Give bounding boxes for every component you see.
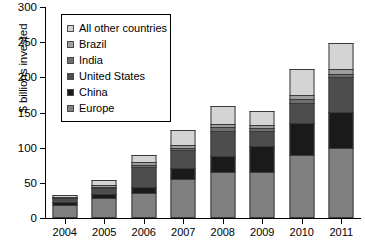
y-tick-label-150: 150 [18,107,37,119]
x-tick-2007 [183,219,184,224]
legend-label: All other countries [79,23,167,34]
y-axis-line [45,7,46,219]
bar-segment-all-other-countries-2008[interactable] [210,106,235,124]
y-tick-label-250: 250 [18,36,37,48]
bar-segment-all-other-countries-2011[interactable] [329,43,354,70]
bar-segment-europe-2007[interactable] [171,179,196,218]
bar-2011[interactable] [329,43,354,218]
y-tick-label-100: 100 [18,142,37,154]
legend-swatch-icon [67,25,74,32]
legend-rows: All other countriesBrazilIndiaUnited Sta… [67,20,166,116]
x-tick-label-2009: 2009 [250,226,274,238]
y-tick-200 [40,77,45,78]
y-tick-300 [40,7,45,8]
bar-segment-europe-2005[interactable] [92,198,117,218]
bar-2009[interactable] [250,111,275,219]
x-tick-2004 [65,219,66,224]
legend-swatch-icon [67,89,74,96]
bar-segment-united-states-2007[interactable] [171,150,196,170]
x-tick-label-2007: 2007 [171,226,195,238]
legend-swatch-icon [67,57,74,64]
y-tick-100 [40,148,45,149]
x-tick-2008 [223,219,224,224]
legend-item-europe[interactable]: Europe [67,100,166,116]
bar-segment-united-states-2011[interactable] [329,77,354,113]
stacked-bar-chart: $ billions invested 050100150200250300 2… [0,0,365,249]
bar-segment-united-states-2009[interactable] [250,131,275,147]
y-tick-150 [40,113,45,114]
bar-segment-china-2010[interactable] [289,123,314,155]
x-tick-2009 [262,219,263,224]
legend-item-china[interactable]: China [67,84,166,100]
x-tick-2006 [144,219,145,224]
bar-segment-europe-2008[interactable] [210,172,235,218]
y-tick-label-50: 50 [24,177,37,189]
legend-label: India [79,55,103,66]
bar-segment-all-other-countries-2007[interactable] [171,130,196,146]
legend-label: Europe [79,103,114,114]
x-axis-line [45,218,361,219]
bar-segment-europe-2006[interactable] [131,193,156,218]
legend-label: China [79,87,108,98]
x-tick-label-2006: 2006 [132,226,156,238]
bar-2010[interactable] [289,69,314,218]
legend-label: United States [79,71,145,82]
bar-2006[interactable] [131,155,156,218]
x-tick-label-2011: 2011 [329,226,353,238]
bar-segment-united-states-2006[interactable] [131,167,156,187]
y-tick-label-200: 200 [18,71,37,83]
bar-segment-europe-2011[interactable] [329,148,354,218]
legend: All other countriesBrazilIndiaUnited Sta… [61,14,171,122]
bar-segment-all-other-countries-2010[interactable] [289,69,314,96]
bar-2008[interactable] [210,106,235,218]
bar-segment-united-states-2008[interactable] [210,131,235,157]
legend-item-brazil[interactable]: Brazil [67,36,166,52]
x-tick-label-2010: 2010 [290,226,314,238]
y-tick-label-300: 300 [18,1,37,13]
x-tick-label-2008: 2008 [211,226,235,238]
legend-label: Brazil [79,39,107,50]
x-tick-2011 [341,219,342,224]
x-tick-2005 [104,219,105,224]
y-tick-250 [40,42,45,43]
bar-segment-united-states-2010[interactable] [289,103,314,125]
y-tick-label-0: 0 [31,212,37,224]
bar-2004[interactable] [52,195,77,218]
legend-swatch-icon [67,73,74,80]
x-tick-2010 [302,219,303,224]
y-tick-50 [40,183,45,184]
x-tick-label-2005: 2005 [92,226,116,238]
bar-segment-china-2011[interactable] [329,112,354,149]
bar-segment-china-2009[interactable] [250,146,275,173]
legend-item-all-other-countries[interactable]: All other countries [67,20,166,36]
bar-2005[interactable] [92,180,117,218]
bar-segment-europe-2010[interactable] [289,155,314,218]
legend-swatch-icon [67,105,74,112]
bar-segment-europe-2009[interactable] [250,172,275,218]
bar-segment-china-2008[interactable] [210,156,235,174]
bar-segment-all-other-countries-2009[interactable] [250,111,275,126]
bar-segment-europe-2004[interactable] [52,205,77,218]
bar-2007[interactable] [171,130,196,218]
legend-item-united-states[interactable]: United States [67,68,166,84]
y-tick-0 [40,218,45,219]
legend-item-india[interactable]: India [67,52,166,68]
x-tick-label-2004: 2004 [53,226,77,238]
legend-swatch-icon [67,41,74,48]
